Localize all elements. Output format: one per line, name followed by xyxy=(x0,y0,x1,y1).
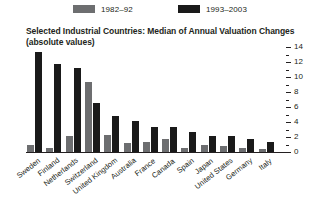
bar-group xyxy=(27,47,43,152)
bar xyxy=(124,143,131,152)
bar xyxy=(74,68,81,152)
bar-group xyxy=(46,47,62,152)
bar xyxy=(112,116,119,152)
bar xyxy=(93,103,100,153)
bar-group xyxy=(124,47,140,152)
bar xyxy=(151,127,158,153)
axis-tick-minor xyxy=(286,100,289,101)
category-label: Italy xyxy=(257,156,274,172)
chart-category-labels: SwedenFinlandNetherlandsSwitzerlandUnite… xyxy=(0,152,321,214)
bar xyxy=(201,145,208,152)
chart-title: Selected Industrial Countries: Median of… xyxy=(26,26,276,48)
axis-tick-label: 12 xyxy=(294,58,303,66)
category-label: Spain xyxy=(175,156,196,175)
bar xyxy=(85,82,92,152)
bar xyxy=(247,139,254,153)
bar xyxy=(143,142,150,152)
axis-tick-minor xyxy=(286,85,289,86)
bar xyxy=(66,136,73,153)
bar-group xyxy=(181,47,197,152)
axis-tick-label: 6 xyxy=(294,103,298,111)
legend-item-1982-92: 1982–92 xyxy=(73,2,133,16)
bar xyxy=(209,136,216,153)
legend-swatch-gray-icon xyxy=(73,5,95,13)
bar xyxy=(162,139,169,152)
bar xyxy=(170,127,177,152)
bar xyxy=(267,142,274,152)
axis-tick-minor xyxy=(286,145,289,146)
axis-tick-major xyxy=(286,92,291,93)
bar xyxy=(104,135,111,152)
axis-tick-label: 14 xyxy=(294,43,303,51)
bar-group xyxy=(201,47,217,152)
bar-group xyxy=(162,47,178,152)
bar-group xyxy=(220,47,236,152)
legend-item-1993-2003: 1993–2003 xyxy=(178,2,247,16)
bar xyxy=(228,136,235,153)
axis-tick-major xyxy=(286,122,291,123)
chart-legend: 1982–92 1993–2003 xyxy=(0,2,321,16)
bar-group xyxy=(104,47,120,152)
axis-tick-major xyxy=(286,77,291,78)
bar-group xyxy=(66,47,82,152)
axis-tick-minor xyxy=(286,130,289,131)
axis-tick-major xyxy=(286,137,291,138)
chart-title-line-1: Selected Industrial Countries: Median of… xyxy=(26,26,276,37)
chart-figure: 1982–92 1993–2003 Selected Industrial Co… xyxy=(0,0,321,214)
category-label: Sweden xyxy=(15,156,42,180)
axis-tick-label: 2 xyxy=(294,133,298,141)
bar xyxy=(189,132,196,152)
bar xyxy=(54,64,61,153)
chart-plot-area xyxy=(26,47,284,152)
axis-tick-major xyxy=(286,62,291,63)
bar xyxy=(132,121,139,153)
legend-label: 1982–92 xyxy=(101,5,133,14)
bar xyxy=(35,52,42,152)
bar-group xyxy=(85,47,101,152)
axis-tick-minor xyxy=(286,70,289,71)
axis-tick-label: 10 xyxy=(294,73,303,81)
axis-tick-minor xyxy=(286,115,289,116)
axis-tick-major xyxy=(286,47,291,48)
bar xyxy=(27,145,34,153)
axis-tick-label: 8 xyxy=(294,88,298,96)
axis-tick-label: 4 xyxy=(294,118,298,126)
bar-group xyxy=(143,47,159,152)
chart-y-axis: 02468101214 xyxy=(286,40,321,160)
axis-tick-major xyxy=(286,107,291,108)
axis-tick-minor xyxy=(286,55,289,56)
legend-label: 1993–2003 xyxy=(206,5,247,14)
legend-swatch-black-icon xyxy=(178,5,200,13)
bar-group xyxy=(259,47,275,152)
bar-group xyxy=(239,47,255,152)
